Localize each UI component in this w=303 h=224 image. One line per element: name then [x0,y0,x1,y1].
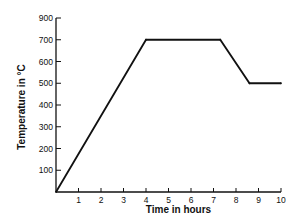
x-axis-title: Time in hours [146,204,212,215]
y-tick-label: 700 [39,35,53,45]
y-tick-label: 600 [39,57,53,67]
x-tick-label: 8 [234,195,239,205]
data-point [55,191,57,193]
x-tick-label: 3 [121,195,126,205]
y-ticks: 100200300400500600700900 [39,13,61,175]
series-line-temperature [56,40,281,192]
series-layer [55,39,282,193]
axes [56,18,281,192]
y-tick-label: 900 [39,13,53,23]
y-axis-title: Temperature in °C [16,64,27,150]
y-tick-label: 100 [39,165,53,175]
x-ticks: 12345678910 [76,188,286,205]
x-tick-label: 10 [276,195,286,205]
data-point [145,39,147,41]
data-point [249,82,251,84]
y-tick-label: 500 [39,78,53,88]
data-point [219,39,221,41]
x-tick-label: 2 [99,195,104,205]
data-point [280,82,282,84]
temperature-time-chart: 12345678910 100200300400500600700900 Tim… [0,0,303,224]
y-tick-label: 400 [39,100,53,110]
y-tick-label: 300 [39,122,53,132]
x-tick-label: 9 [256,195,261,205]
x-tick-label: 7 [211,195,216,205]
y-tick-label: 200 [39,144,53,154]
x-tick-label: 1 [76,195,81,205]
